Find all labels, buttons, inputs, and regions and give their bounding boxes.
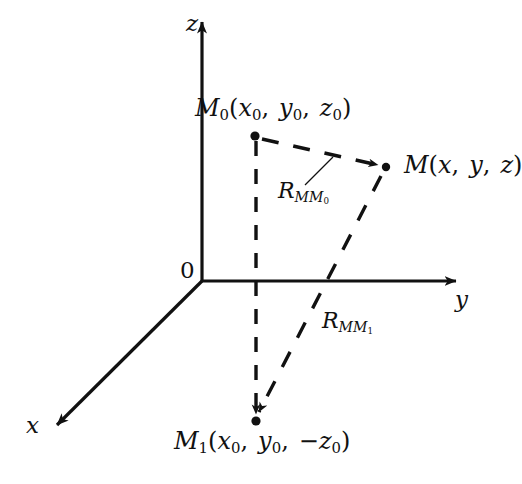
point-label-m1-subscript: 1 bbox=[199, 439, 208, 457]
distance-label-r-mm0-subscript: MM0 bbox=[295, 189, 329, 205]
dashed-segment-m-to-m1 bbox=[259, 176, 381, 412]
y-axis-label: y bbox=[455, 288, 468, 311]
x-axis-label: x bbox=[26, 414, 39, 437]
comma: , bbox=[261, 94, 269, 122]
point-label-m0: M0(x0, y0, z0) bbox=[195, 96, 351, 123]
point-label-m0-base: M bbox=[195, 94, 220, 122]
x-axis bbox=[57, 281, 202, 425]
point-label-m: M(x, y, z) bbox=[404, 153, 522, 177]
point-label-m0-coord-x: x bbox=[238, 94, 252, 122]
distance-label-r-mm0-sub-index: 0 bbox=[323, 197, 329, 207]
distance-label-r-mm0-base: R bbox=[278, 178, 295, 203]
point-label-m1-coord-y-sub: 0 bbox=[272, 439, 281, 457]
point-label-m1: M1(x0, y0, −z0) bbox=[174, 429, 350, 456]
distance-label-r-mm1-sub-main: MM bbox=[339, 319, 368, 335]
point-marker-m1 bbox=[251, 416, 260, 425]
point-label-m0-coord-y: y bbox=[279, 94, 293, 122]
comma: , bbox=[240, 427, 248, 455]
point-marker-m bbox=[382, 163, 390, 171]
point-label-m0-coord-z: z bbox=[320, 94, 333, 122]
point-marker-m0 bbox=[250, 131, 259, 140]
point-label-m1-base: M bbox=[174, 427, 199, 455]
point-label-m0-coord-z-sub: 0 bbox=[332, 106, 341, 124]
point-label-m-coord-z: z bbox=[500, 151, 513, 179]
open-paren: ( bbox=[429, 151, 438, 179]
close-paren: ) bbox=[342, 94, 351, 122]
point-label-m-base: M bbox=[404, 151, 429, 179]
distance-label-r-mm1: RMM1 bbox=[322, 310, 373, 336]
point-label-m1-coord-y: y bbox=[258, 427, 272, 455]
origin-label: 0 bbox=[180, 259, 195, 282]
point-label-m-coord-y: y bbox=[469, 151, 483, 179]
point-label-m1-coord-x: x bbox=[217, 427, 231, 455]
comma: , bbox=[302, 94, 310, 122]
comma: , bbox=[452, 151, 460, 179]
distance-label-r-mm0: RMM0 bbox=[278, 180, 329, 206]
point-label-m1-coord-z-sub: 0 bbox=[332, 439, 341, 457]
distance-label-r-mm1-sub-index: 1 bbox=[367, 327, 373, 337]
comma: , bbox=[483, 151, 491, 179]
point-label-m-coord-x: x bbox=[438, 151, 452, 179]
point-label-m0-subscript: 0 bbox=[220, 106, 229, 124]
minus-sign: − bbox=[299, 427, 319, 455]
close-paren: ) bbox=[513, 151, 522, 179]
distance-label-r-mm0-sub-main: MM bbox=[295, 189, 324, 205]
close-paren: ) bbox=[341, 427, 350, 455]
point-label-m0-coord-y-sub: 0 bbox=[293, 106, 302, 124]
distance-label-r-mm1-subscript: MM1 bbox=[339, 319, 373, 335]
comma: , bbox=[281, 427, 289, 455]
point-label-m1-coord-z: z bbox=[319, 427, 332, 455]
z-axis-label: z bbox=[186, 12, 198, 35]
distance-label-r-mm1-base: R bbox=[322, 308, 339, 333]
dashed-segment-m0-to-m bbox=[262, 139, 378, 165]
